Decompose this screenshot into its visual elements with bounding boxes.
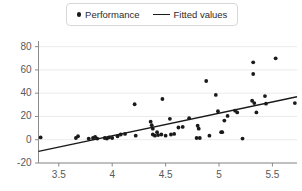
data-point (251, 60, 255, 64)
data-point (168, 117, 172, 121)
y-axis-tick-label: -20 (17, 158, 31, 168)
data-point (263, 94, 267, 98)
data-point (252, 101, 256, 105)
data-point (172, 132, 176, 136)
data-point (197, 127, 201, 131)
data-point (169, 133, 173, 137)
data-point (235, 110, 239, 114)
data-point (274, 56, 278, 60)
data-point (181, 125, 185, 129)
data-point (76, 134, 80, 138)
y-axis-tick-label: 20 (20, 111, 31, 121)
data-point (177, 126, 181, 130)
data-point (293, 101, 297, 105)
data-point (161, 97, 165, 101)
data-point (134, 134, 138, 138)
data-point (251, 72, 255, 76)
data-point (208, 134, 212, 138)
data-point (241, 137, 245, 141)
x-axis-tick-label: 4.5 (159, 170, 173, 180)
data-point (255, 110, 259, 114)
y-axis-tick-label: 0 (26, 135, 32, 145)
x-axis-tick-label: 5.5 (265, 170, 279, 180)
data-point (220, 130, 224, 134)
x-axis-tick-label: 5 (216, 170, 222, 180)
data-point (133, 102, 137, 106)
data-point (153, 134, 157, 138)
y-axis-tick-label: 60 (20, 65, 31, 75)
data-point (214, 93, 218, 97)
plot-area: -200204060803.544.555.5 (0, 0, 302, 191)
fitted-line (39, 97, 298, 152)
data-point (204, 79, 208, 83)
x-axis-tick-label: 3.5 (52, 170, 66, 180)
y-axis-tick-label: 40 (20, 88, 31, 98)
data-point (149, 120, 153, 124)
x-axis-tick-label: 4 (109, 170, 115, 180)
y-axis-tick-label: 80 (20, 42, 31, 52)
data-point (222, 119, 226, 123)
data-point (164, 134, 168, 138)
data-point (156, 133, 160, 137)
chart-container: Performance Fitted values -200204060803.… (0, 0, 302, 191)
data-point (39, 136, 43, 140)
data-point (226, 114, 230, 118)
data-point (159, 133, 163, 137)
chart-svg (0, 0, 302, 191)
data-point (198, 136, 202, 140)
